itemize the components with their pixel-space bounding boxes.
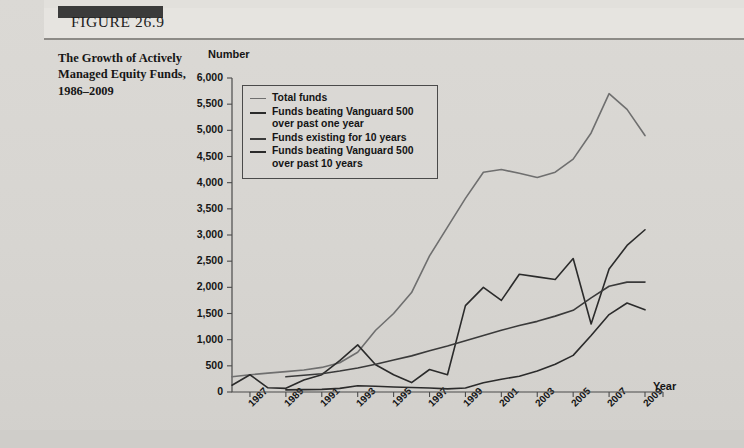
legend-line-swatch-icon [250,151,266,153]
header-divider [44,38,744,40]
legend-line-swatch-icon [250,138,266,140]
figure-page: FIGURE 26.9 The Growth of Actively Manag… [0,0,744,448]
legend-item[interactable]: Funds beating Vanguard 500 over past one… [249,106,430,131]
legend-item-label: Funds beating Vanguard 500 over past one… [272,106,430,131]
series-line-2 [232,230,645,389]
series-line-4 [286,303,645,390]
legend-item-label: Total funds [272,92,327,105]
legend-item[interactable]: Funds beating Vanguard 500 over past 10 … [249,145,430,170]
legend-item[interactable]: Total funds [249,92,430,105]
chart-legend: Total fundsFunds beating Vanguard 500 ov… [242,85,438,179]
figure-caption: The Growth of Actively Managed Equity Fu… [58,50,188,99]
figure-number-label: FIGURE 26.9 [71,13,165,31]
legend-line-swatch-icon [250,98,266,99]
chart-container: Number Year 05001,0001,5002,0002,5003,00… [190,45,730,445]
legend-item[interactable]: Funds existing for 10 years [249,132,430,145]
legend-line-swatch-icon [250,112,266,114]
legend-item-label: Funds existing for 10 years [272,132,407,145]
page-bottom-margin [0,430,744,448]
legend-item-label: Funds beating Vanguard 500 over past 10 … [272,145,430,170]
